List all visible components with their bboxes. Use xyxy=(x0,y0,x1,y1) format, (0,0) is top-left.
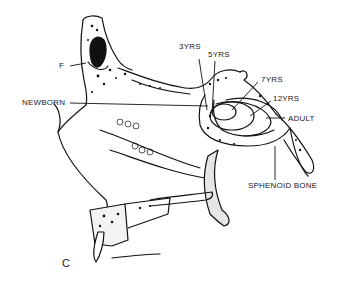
label-sphenoid-bone: SPHENOID BONE xyxy=(248,181,317,190)
label-12yrs: 12YRS xyxy=(273,94,299,103)
panel-letter: C xyxy=(62,257,70,269)
label-newborn: NEWBORN xyxy=(22,98,65,107)
sphenoid-sinus-drawing xyxy=(0,0,340,288)
label-frontal: F xyxy=(59,61,64,70)
label-7yrs: 7YRS xyxy=(261,75,283,84)
anatomical-figure: F NEWBORN 3YRS 5YRS 7YRS 12YRS ADULT SPH… xyxy=(0,0,340,288)
label-5yrs: 5YRS xyxy=(208,50,230,59)
label-adult: ADULT xyxy=(288,114,315,123)
label-3yrs: 3YRS xyxy=(179,42,201,51)
